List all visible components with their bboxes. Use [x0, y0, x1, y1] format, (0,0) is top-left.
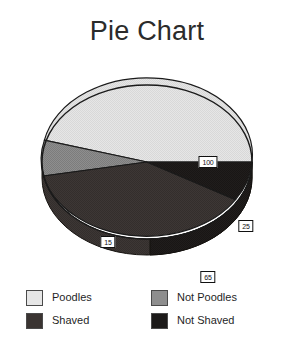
legend-label-not-shaved: Not Shaved [177, 314, 234, 327]
legend-swatch-shaved [26, 313, 43, 329]
legend-swatch-poodles [26, 290, 43, 306]
data-label-shaved: 65 [200, 271, 215, 283]
legend-label-shaved: Shaved [52, 314, 89, 327]
data-label-poodles: 100 [198, 156, 217, 168]
legend-item-not-shaved: Not Shaved [151, 309, 276, 332]
legend-label-not-poodles: Not Poodles [177, 291, 237, 304]
legend-item-not-poodles: Not Poodles [151, 286, 276, 309]
chart-legend: Poodles Not Poodles Shaved Not Shaved [26, 286, 276, 332]
pie-chart-figure: Pie Chart [0, 0, 294, 357]
pie-svg [30, 66, 264, 266]
legend-swatch-not-shaved [151, 313, 168, 329]
legend-item-shaved: Shaved [26, 309, 151, 332]
data-label-not-poodles: 15 [100, 236, 115, 248]
pie-slices [41, 78, 252, 236]
pie-plot-area: 100 25 65 15 [30, 66, 264, 266]
legend-item-poodles: Poodles [26, 286, 151, 309]
data-label-not-shaved: 25 [238, 220, 253, 232]
legend-label-poodles: Poodles [52, 291, 92, 304]
chart-title: Pie Chart [0, 16, 294, 47]
legend-swatch-not-poodles [151, 290, 168, 306]
